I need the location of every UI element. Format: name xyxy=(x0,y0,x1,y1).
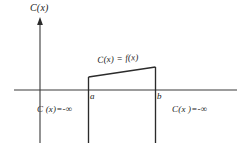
function-graph-figure: C(x) C(x) = f(x) a b C (x)=-∞ C(x )=-∞ xyxy=(0,0,246,143)
x-tick-label-a: a xyxy=(90,92,95,101)
x-tick-label-b: b xyxy=(157,92,162,101)
function-segment-line xyxy=(89,67,156,77)
left-region-label: C (x)=-∞ xyxy=(37,105,72,114)
graph-canvas xyxy=(0,0,246,143)
y-axis-arrow-icon xyxy=(37,17,43,25)
right-region-label: C(x )=-∞ xyxy=(172,105,207,114)
y-axis-label: C(x) xyxy=(30,3,49,13)
